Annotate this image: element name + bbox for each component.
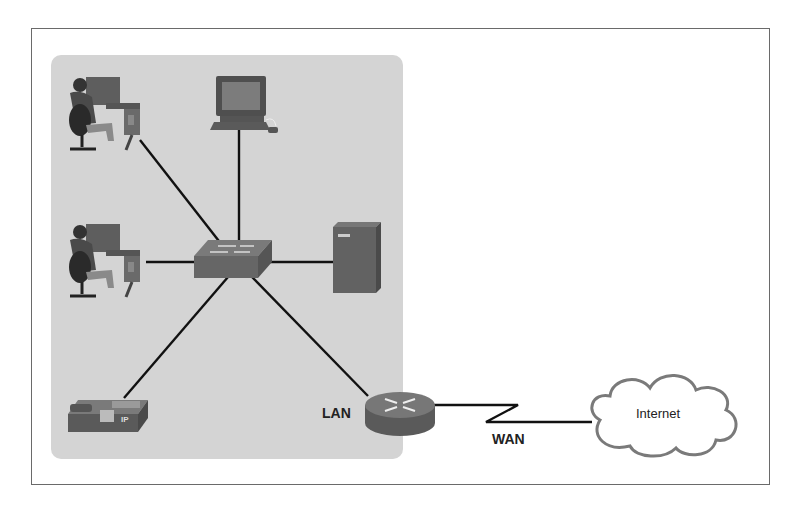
internet-label: Internet: [636, 406, 680, 421]
server-icon[interactable]: [333, 222, 381, 293]
workstation-icon[interactable]: [69, 224, 140, 297]
desktop-computer-icon[interactable]: [210, 76, 278, 133]
workstation-icon[interactable]: [69, 77, 140, 150]
network-diagram: IP: [0, 0, 794, 511]
router-icon[interactable]: [365, 392, 435, 436]
lan-label: LAN: [322, 405, 351, 421]
link-switch-phone: [124, 277, 228, 398]
ip-phone-icon[interactable]: IP: [68, 400, 148, 432]
switch-icon[interactable]: [194, 240, 272, 278]
wan-label: WAN: [492, 431, 525, 447]
ip-badge-text: IP: [121, 415, 129, 424]
link-switch-router: [252, 277, 368, 396]
link-workstation1-switch: [140, 140, 222, 245]
link-router-internet-wan: [434, 405, 592, 422]
